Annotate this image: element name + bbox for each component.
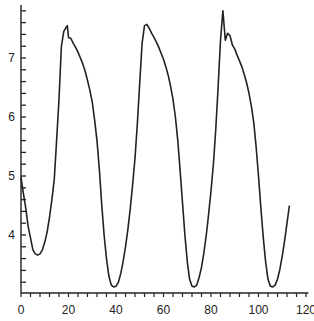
line-chart: 4567 020406080100120: [0, 0, 314, 321]
y-tick-label: 5: [8, 169, 15, 183]
y-tick-label: 4: [8, 228, 15, 242]
x-tick-label: 20: [62, 303, 76, 317]
x-tick-label: 0: [18, 303, 25, 317]
x-tick-label: 100: [248, 303, 268, 317]
x-tick-label: 40: [109, 303, 123, 317]
y-tick-label: 7: [8, 51, 15, 65]
x-tick-label: 80: [204, 303, 218, 317]
data-line: [21, 11, 289, 287]
x-tick-label: 120: [296, 303, 314, 317]
x-tick-label: 60: [157, 303, 171, 317]
x-axis: 020406080100120: [18, 293, 314, 317]
y-axis: 4567: [8, 5, 26, 293]
y-tick-label: 6: [8, 110, 15, 124]
